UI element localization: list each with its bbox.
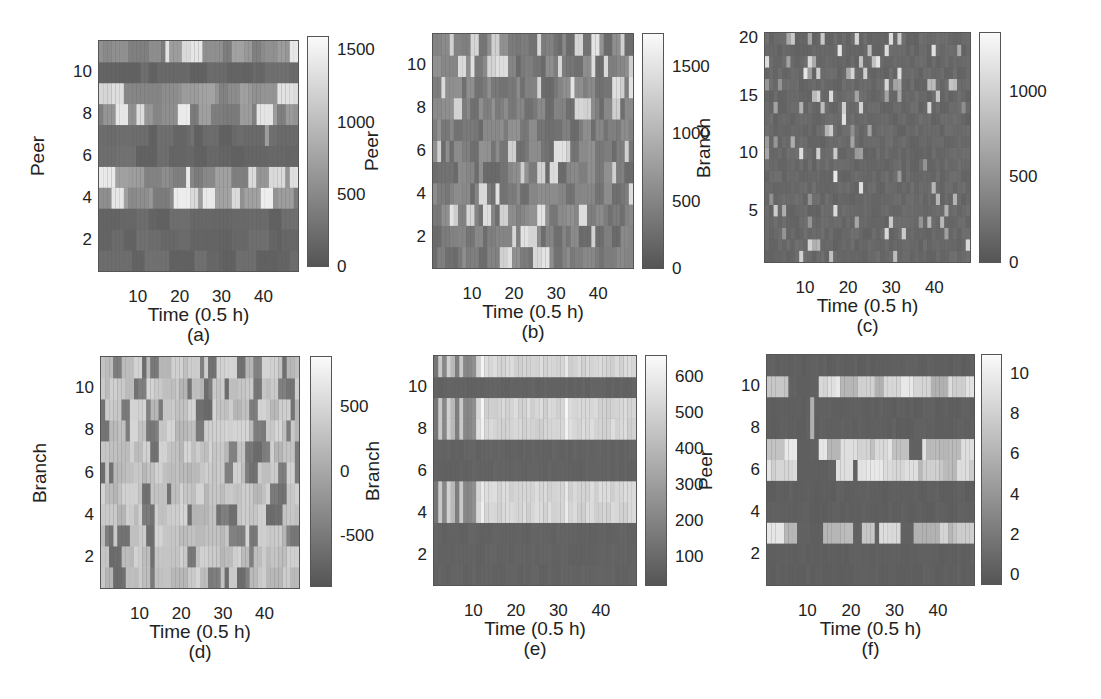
colorbar-tick-label: 1500 [672, 58, 710, 75]
panel-caption: (b) [513, 321, 553, 343]
x-tick-label: 40 [250, 605, 280, 622]
colorbar-tick-label: 0 [337, 258, 346, 275]
y-tick-label: 8 [386, 99, 426, 116]
x-tick-label: 20 [833, 279, 863, 296]
x-tick-label: 10 [790, 279, 820, 296]
y-tick-label: 10 [386, 56, 426, 73]
x-axis-label: Time (0.5 h) [99, 304, 299, 326]
x-tick-label: 30 [879, 602, 909, 619]
panel-caption: (d) [180, 641, 220, 663]
x-tick-label: 40 [923, 602, 953, 619]
x-tick-label: 10 [457, 285, 487, 302]
colorbar-tick-label: 0 [1010, 566, 1019, 583]
colorbar-tick-label: 0 [340, 463, 349, 480]
y-tick-label: 4 [386, 185, 426, 202]
y-tick-label: 10 [718, 144, 758, 161]
colorbar-tick-label: 6 [1010, 445, 1019, 462]
heatmap-plot-f [766, 354, 975, 586]
colorbar-tick-label: 0 [672, 260, 681, 277]
y-tick-label: 2 [54, 548, 94, 565]
y-tick-label: 10 [720, 377, 760, 394]
y-tick-label: 6 [386, 142, 426, 159]
x-tick-label: 30 [876, 279, 906, 296]
y-axis-label: Peer [27, 96, 49, 216]
y-axis-label: Peer [361, 91, 383, 211]
colorbar-tick-label: 10 [1010, 365, 1029, 382]
colorbar-tick-label: 2 [1010, 526, 1019, 543]
y-tick-label: 4 [54, 506, 94, 523]
x-tick-label: 20 [836, 602, 866, 619]
x-tick-label: 10 [792, 602, 822, 619]
colorbar-tick-label: 8 [1010, 405, 1019, 422]
y-axis-label: Branch [362, 411, 384, 531]
y-tick-label: 2 [52, 231, 92, 248]
heatmap-plot-a [98, 40, 299, 272]
y-tick-label: 4 [720, 503, 760, 520]
y-axis-label: Peer [695, 410, 717, 530]
colorbar-tick-label: 100 [675, 548, 703, 565]
y-tick-label: 10 [52, 63, 92, 80]
colorbar-c [979, 32, 1001, 263]
x-axis-label: Time (0.5 h) [768, 295, 968, 317]
x-axis-label: Time (0.5 h) [100, 621, 300, 643]
colorbar-tick-label: 500 [1009, 168, 1037, 185]
colorbar-tick-label: 1500 [337, 41, 375, 58]
x-tick-label: 40 [919, 279, 949, 296]
y-tick-label: 8 [54, 421, 94, 438]
y-tick-label: 10 [387, 378, 427, 395]
heatmap-plot-e [433, 355, 637, 586]
y-tick-label: 4 [387, 504, 427, 521]
x-tick-label: 10 [458, 602, 488, 619]
y-tick-label: 20 [718, 29, 758, 46]
colorbar-a [307, 36, 329, 267]
x-tick-label: 20 [165, 288, 195, 305]
x-tick-label: 30 [208, 605, 238, 622]
y-axis-label: Branch [693, 88, 715, 208]
y-tick-label: 6 [387, 462, 427, 479]
colorbar-f [981, 354, 1002, 585]
x-tick-label: 20 [501, 602, 531, 619]
colorbar-tick-label: 0 [1009, 254, 1018, 271]
y-tick-label: 6 [54, 464, 94, 481]
x-axis-label: Time (0.5 h) [435, 618, 635, 640]
colorbar-d [310, 356, 332, 587]
colorbar-tick-label: 4 [1010, 486, 1019, 503]
y-tick-label: 15 [718, 87, 758, 104]
panel-caption: (c) [848, 315, 888, 337]
x-tick-label: 30 [207, 288, 237, 305]
x-tick-label: 30 [543, 602, 573, 619]
y-tick-label: 10 [54, 379, 94, 396]
heatmap-plot-c [764, 32, 971, 263]
x-tick-label: 10 [123, 288, 153, 305]
colorbar-b [642, 33, 664, 269]
x-tick-label: 20 [499, 285, 529, 302]
x-tick-label: 30 [541, 285, 571, 302]
panel-caption: (e) [515, 638, 555, 660]
colorbar-e [645, 355, 667, 586]
y-tick-label: 8 [387, 420, 427, 437]
colorbar-tick-label: 600 [675, 368, 703, 385]
heatmap-plot-d [100, 356, 300, 589]
y-tick-label: 2 [720, 545, 760, 562]
y-axis-label: Branch [29, 413, 51, 533]
x-tick-label: 40 [583, 285, 613, 302]
x-tick-label: 40 [586, 602, 616, 619]
y-tick-label: 8 [52, 105, 92, 122]
x-tick-label: 20 [166, 605, 196, 622]
y-tick-label: 6 [720, 461, 760, 478]
heatmap-plot-b [432, 33, 634, 269]
y-tick-label: 6 [52, 147, 92, 164]
x-tick-label: 40 [248, 288, 278, 305]
x-tick-label: 10 [125, 605, 155, 622]
panel-caption: (f) [851, 638, 891, 660]
y-tick-label: 2 [386, 228, 426, 245]
y-tick-label: 2 [387, 546, 427, 563]
y-tick-label: 5 [718, 202, 758, 219]
panel-caption: (a) [179, 324, 219, 346]
y-tick-label: 8 [720, 419, 760, 436]
x-axis-label: Time (0.5 h) [771, 618, 971, 640]
x-axis-label: Time (0.5 h) [433, 301, 633, 323]
y-tick-label: 4 [52, 189, 92, 206]
colorbar-tick-label: 1000 [1009, 83, 1047, 100]
